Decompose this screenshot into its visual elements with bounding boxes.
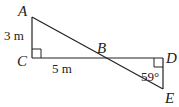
angle-E: 59° xyxy=(141,69,159,84)
label-E: E xyxy=(164,90,174,106)
label-A: A xyxy=(17,3,28,19)
label-C: C xyxy=(17,53,28,69)
length-AC: 3 m xyxy=(4,28,24,43)
right-angle-marker-C xyxy=(32,49,41,58)
right-angle-marker-D xyxy=(154,58,163,67)
geometry-diagram: A C B D E 3 m 5 m 59° xyxy=(0,0,179,107)
label-B: B xyxy=(97,40,106,56)
length-CB: 5 m xyxy=(52,61,72,76)
label-D: D xyxy=(165,50,177,66)
